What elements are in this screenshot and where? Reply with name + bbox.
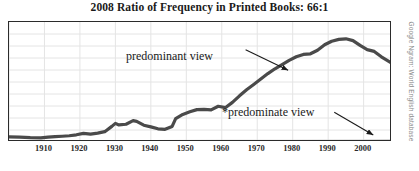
x-tick-1980: 1980: [283, 143, 300, 153]
source-credit: Google Ngram: World English database: [406, 22, 418, 140]
x-tick-1970: 1970: [248, 143, 265, 153]
x-tick-1950: 1950: [177, 143, 194, 153]
x-tick-2000: 2000: [354, 143, 371, 153]
plot-area: [8, 21, 391, 141]
x-tick-1960: 1960: [212, 143, 229, 153]
chart-title: 2008 Ratio of Frequency in Printed Books…: [0, 1, 419, 13]
source-credit-label: Google Ngram: World English database: [409, 21, 416, 141]
series-lines: [9, 22, 391, 141]
x-tick-1910: 1910: [35, 143, 52, 153]
x-tick-1920: 1920: [70, 143, 87, 153]
annotation-predominate-view: *predominate view: [222, 105, 314, 120]
x-axis-tick-labels: 1910192019301940195019601970198019902000: [8, 143, 391, 157]
annotation-predominant-view: predominant view: [126, 49, 213, 64]
x-tick-1940: 1940: [141, 143, 158, 153]
x-tick-1930: 1930: [106, 143, 123, 153]
x-tick-1990: 1990: [319, 143, 336, 153]
chart-figure: 2008 Ratio of Frequency in Printed Books…: [0, 0, 419, 171]
